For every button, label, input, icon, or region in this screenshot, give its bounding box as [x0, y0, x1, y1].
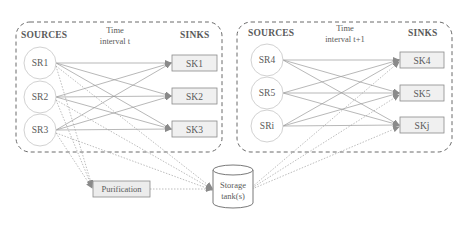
sink-label: SK1: [186, 59, 203, 69]
source-node-sr5[interactable]: SR5: [251, 77, 283, 109]
purification-node[interactable]: Purification: [93, 181, 150, 197]
sinks-header-t: SINKS: [180, 30, 210, 40]
time-label-t-plus-1-line2: interval t+1: [325, 34, 365, 44]
sink-node-sk2[interactable]: SK2: [172, 88, 217, 104]
sink-label: SK2: [186, 92, 203, 102]
purification-label: Purification: [101, 184, 142, 194]
source-node-sr2[interactable]: SR2: [24, 81, 56, 113]
edges-interval-t: [56, 63, 171, 130]
time-label-t-line1: Time: [106, 25, 124, 35]
sink-label: SK3: [186, 125, 203, 135]
sinks-header-t-plus-1: SINKS: [408, 28, 438, 38]
diagram-canvas: SOURCES Time interval t SINKS SOURCES Ti…: [0, 0, 465, 226]
sources-header-t-plus-1: SOURCES: [248, 28, 294, 38]
source-label: SR2: [32, 92, 49, 102]
edges-interval-t-plus-1: [283, 60, 399, 126]
sink-label: SKj: [415, 121, 430, 131]
sink-node-sk5[interactable]: SK5: [400, 85, 444, 101]
sink-label: SK5: [414, 89, 431, 99]
source-label: SR5: [259, 88, 276, 98]
time-label-t-line2: interval t: [100, 36, 131, 46]
storage-tank-node[interactable]: Storage tank(s): [213, 165, 253, 208]
sources-header-t: SOURCES: [21, 30, 67, 40]
source-node-sri[interactable]: SRi: [251, 110, 283, 142]
storage-label-line2: tank(s): [221, 191, 245, 201]
sink-label: SK4: [414, 56, 431, 66]
sink-node-sk1[interactable]: SK1: [172, 55, 217, 71]
sink-node-sk4[interactable]: SK4: [400, 52, 444, 68]
storage-label-line1: Storage: [220, 180, 246, 190]
source-label: SR4: [259, 55, 276, 65]
source-node-sr3[interactable]: SR3: [24, 114, 56, 146]
source-label: SR1: [32, 58, 49, 68]
source-label: SRi: [260, 121, 275, 131]
source-node-sr4[interactable]: SR4: [251, 44, 283, 76]
sink-node-skj[interactable]: SKj: [400, 117, 444, 133]
source-node-sr1[interactable]: SR1: [24, 47, 56, 79]
source-label: SR3: [32, 125, 49, 135]
sink-node-sk3[interactable]: SK3: [172, 121, 217, 137]
time-label-t-plus-1-line1: Time: [336, 23, 354, 33]
